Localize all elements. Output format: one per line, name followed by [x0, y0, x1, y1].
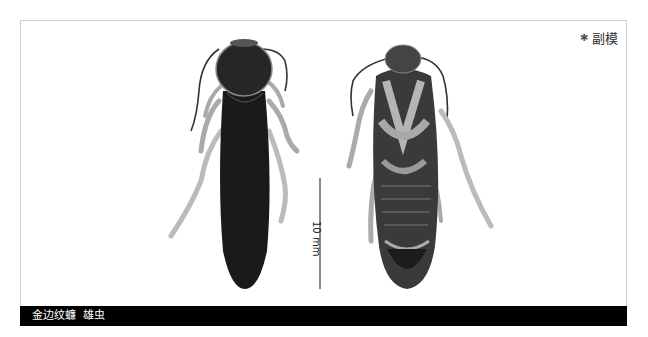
specimen-plate: ✱ 副模 10 mm	[20, 20, 627, 326]
scale-bar-label: 10 mm	[311, 221, 322, 256]
paratype-label: 副模	[592, 28, 618, 47]
paratype-badge: ✱ 副模	[580, 28, 618, 47]
species-caption: 金边纹蠊 雄虫	[32, 309, 105, 322]
star-icon: ✱	[580, 32, 588, 43]
specimen-dorsal-view	[161, 21, 311, 301]
specimen-ventral-view	[331, 21, 501, 301]
caption-bar: 金边纹蠊 雄虫	[20, 306, 627, 326]
